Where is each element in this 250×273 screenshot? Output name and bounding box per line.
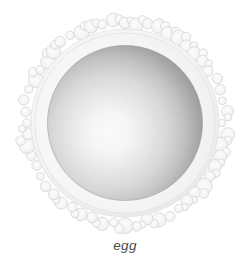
ovum-body — [48, 46, 203, 201]
egg-illustration — [0, 0, 250, 240]
figure-caption: egg — [113, 238, 137, 253]
figure-root: egg — [0, 0, 250, 273]
caption-row: egg — [0, 236, 250, 255]
egg-diagram-svg — [0, 0, 250, 240]
